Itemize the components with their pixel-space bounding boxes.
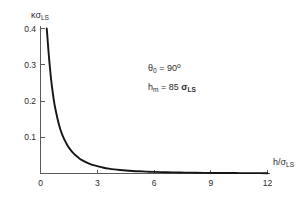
chart-figure: 0.1 0.2 0.3 0.4 0 3 6 9 12 κσLS h/σLS θ0…: [0, 0, 308, 203]
y-tick-label: 0.3: [24, 60, 36, 70]
annotation-theta-sub: 0: [153, 67, 157, 74]
y-tick-label: 0.4: [24, 24, 36, 34]
annotation-theta-degree: o: [177, 62, 181, 69]
y-tick-label: 0.1: [24, 132, 36, 142]
annotation-hm-value: = 85: [159, 82, 182, 92]
plot-canvas: 0.1 0.2 0.3 0.4 0 3 6 9 12: [0, 0, 308, 203]
x-tick-label: 0: [38, 178, 43, 188]
x-axis-title-main: h/σ: [273, 157, 286, 167]
x-axis-title: h/σLS: [273, 158, 294, 167]
x-tick-label: 12: [263, 178, 273, 188]
data-curve: [47, 29, 268, 174]
x-tick-label: 9: [208, 178, 213, 188]
annotation-hm-sub: m: [153, 86, 159, 93]
x-axis-title-sub: LS: [286, 161, 294, 168]
y-axis-title-main: κσ: [31, 10, 41, 20]
annotation-theta-value: = 90: [157, 63, 177, 73]
annotation-theta-0: θ0 = 90o: [148, 64, 181, 73]
y-axis-title-sub: LS: [41, 14, 49, 21]
y-tick-marks: [41, 29, 45, 138]
x-tick-labels: 0 3 6 9 12: [38, 178, 272, 188]
y-axis-title: κσLS: [31, 11, 49, 20]
annotation-h-m: hm = 85 σLS: [148, 83, 196, 92]
y-tick-label: 0.2: [24, 96, 36, 106]
y-tick-labels: 0.1 0.2 0.3 0.4: [24, 24, 36, 143]
x-tick-label: 6: [152, 178, 157, 188]
annotation-hm-unit-sub: LS: [187, 86, 195, 93]
x-tick-label: 3: [95, 178, 100, 188]
